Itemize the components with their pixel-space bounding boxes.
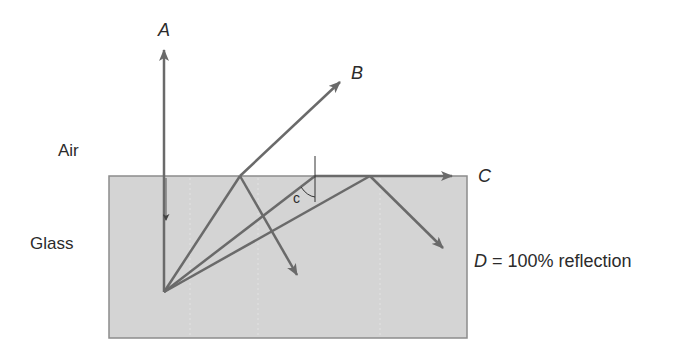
- ray-b-label: B: [351, 63, 363, 84]
- critical-angle-label: c: [293, 190, 300, 206]
- glass-label: Glass: [30, 234, 73, 254]
- air-label: Air: [58, 141, 79, 161]
- ray-d-label: D: [474, 251, 487, 271]
- ray-d-label-group: D = 100% reflection: [474, 251, 632, 272]
- ray-a-label: A: [158, 20, 170, 41]
- tir-diagram: A B C D = 100% reflection c Air Glass: [0, 0, 696, 356]
- ray-c-label: C: [478, 166, 491, 187]
- diagram-canvas: [0, 0, 696, 356]
- ray-d-caption: = 100% reflection: [487, 251, 632, 271]
- ray-b-refracted: [240, 82, 340, 176]
